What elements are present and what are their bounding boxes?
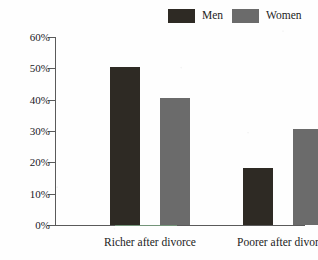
y-tick-label: 10%	[30, 188, 50, 199]
y-axis-line	[55, 37, 56, 225]
legend-swatch-men-icon	[168, 9, 195, 23]
bar-women-poorer	[293, 129, 318, 226]
bar-men-poorer	[243, 168, 273, 225]
legend-item-women: Women	[232, 9, 301, 23]
legend-item-men: Men	[168, 9, 223, 23]
y-tick-label: 50%	[30, 63, 50, 74]
y-tick-label: 40%	[30, 94, 50, 105]
chart-legend: Men Women	[168, 9, 302, 23]
y-tick-label: 60%	[30, 32, 50, 43]
y-tick-label: 20%	[30, 157, 50, 168]
y-tick-label: 30%	[30, 126, 50, 137]
bar-women-richer	[160, 98, 190, 225]
legend-label-women: Women	[266, 10, 301, 22]
x-axis-scan-tint	[115, 225, 177, 226]
x-category-label: Richer after divorce	[104, 237, 196, 249]
bar-chart: Men Women 0%10%20%30%40%50%60% Richer af…	[0, 0, 318, 260]
legend-label-men: Men	[202, 10, 223, 22]
y-tick-label: 0%	[35, 220, 50, 231]
plot-area: 0%10%20%30%40%50%60% Richer after divorc…	[55, 37, 307, 225]
bar-men-richer	[110, 67, 140, 225]
x-category-label: Poorer after divorce	[237, 237, 318, 249]
legend-swatch-women-icon	[232, 9, 259, 23]
